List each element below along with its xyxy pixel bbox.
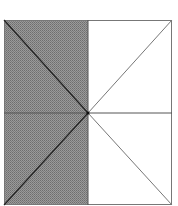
diagonal-top-right <box>88 20 172 113</box>
center-point <box>87 112 90 115</box>
geometry-figure <box>0 0 178 206</box>
diagonal-bottom-right <box>88 113 172 205</box>
